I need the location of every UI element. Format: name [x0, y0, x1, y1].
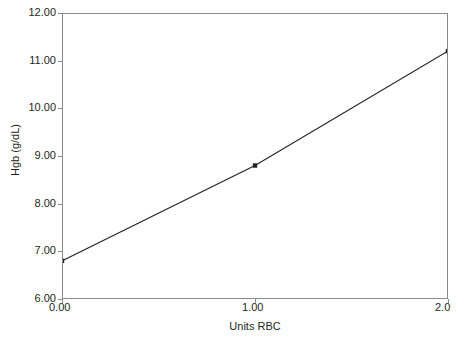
- y-axis-tick-mark: [58, 204, 62, 205]
- y-axis-tick-mark: [58, 108, 62, 109]
- x-axis-tick-label: 1.00: [242, 302, 263, 313]
- y-axis-tick-label: 10.00: [8, 102, 56, 113]
- x-axis-tick-label: 0.00: [49, 302, 70, 313]
- y-axis-tick-mark: [58, 156, 62, 157]
- data-point-marker: [253, 163, 257, 167]
- y-axis-tick-mark: [58, 251, 62, 252]
- y-axis-tick-mark: [58, 13, 62, 14]
- plot-area: [63, 14, 447, 298]
- y-axis-tick-mark: [58, 61, 62, 62]
- y-axis-tick-label: 11.00: [8, 55, 56, 66]
- y-axis-tick-label: 12.00: [8, 7, 56, 18]
- plot-frame: [62, 13, 448, 299]
- x-axis-title: Units RBC: [62, 320, 448, 332]
- data-point-marker: [63, 259, 64, 263]
- data-point-marker: [446, 49, 447, 53]
- series-line: [63, 51, 447, 261]
- y-axis-tick-label: 9.00: [8, 150, 56, 161]
- x-axis-tick-label: 2.0: [435, 302, 450, 313]
- data-series-line: [63, 14, 447, 298]
- y-axis-tick-labels: 6.007.008.009.0010.0011.0012.00: [0, 0, 56, 348]
- y-axis-tick-label: 8.00: [8, 198, 56, 209]
- chart-figure: Hgb (g/dL) 6.007.008.009.0010.0011.0012.…: [0, 0, 469, 348]
- y-axis-tick-label: 7.00: [8, 245, 56, 256]
